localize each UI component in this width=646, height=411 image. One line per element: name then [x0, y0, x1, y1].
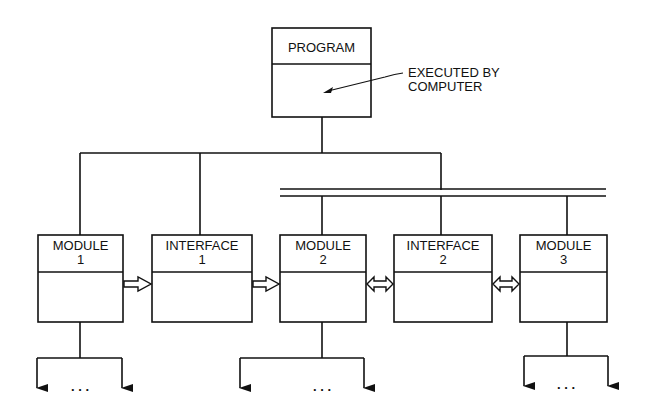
ellipsis-1: . . .	[71, 379, 89, 394]
box-title: MODULE	[536, 238, 592, 253]
module-1-box: MODULE 1	[38, 235, 123, 322]
program-title: PROGRAM	[288, 40, 355, 55]
box-title: INTERFACE	[166, 238, 239, 253]
two-way-arrow-icon	[367, 277, 393, 291]
one-way-arrow-icon	[124, 277, 151, 291]
module-3-children	[478, 322, 608, 386]
box-number: 3	[560, 252, 567, 267]
interface-1-box: INTERFACE 1	[152, 235, 252, 322]
ellipsis-3: . . .	[557, 377, 575, 392]
module-2-box: MODULE 2	[280, 235, 366, 322]
one-way-arrow-icon	[253, 277, 279, 291]
box-title: MODULE	[295, 238, 351, 253]
module-3-box: MODULE 3	[520, 235, 607, 322]
box-number: 1	[198, 252, 205, 267]
top-connectors	[80, 117, 441, 235]
bus-drops	[322, 196, 567, 235]
box-number: 1	[77, 252, 84, 267]
program-box: PROGRAM	[272, 28, 371, 117]
annotation-line-1: EXECUTED BY	[408, 65, 500, 80]
double-bus-line	[280, 189, 606, 196]
interface-2-box: INTERFACE 2	[394, 235, 492, 322]
box-number: 2	[319, 252, 326, 267]
two-way-arrow-icon	[493, 277, 519, 291]
annotation-line-2: COMPUTER	[408, 79, 482, 94]
box-number: 2	[439, 252, 446, 267]
box-title: MODULE	[53, 238, 109, 253]
program-structure-diagram: PROGRAM EXECUTED BY COMPUTER MODULE 1 IN…	[0, 0, 646, 411]
ellipsis-2: . . .	[313, 379, 331, 394]
box-title: INTERFACE	[407, 238, 480, 253]
module-2-children	[240, 322, 364, 388]
